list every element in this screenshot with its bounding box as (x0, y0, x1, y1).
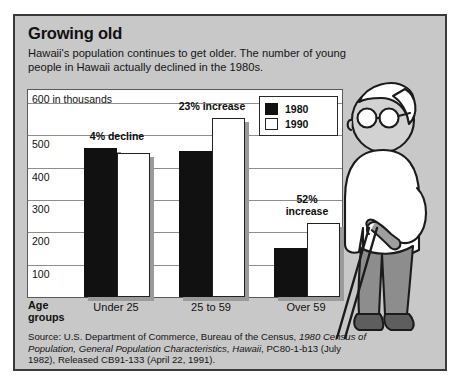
chart-plot-area: 600 in thousands 100200300400500 4% decl… (27, 89, 343, 298)
bar-1980-under-25 (84, 148, 117, 297)
infographic-panel: Growing old Hawaii's population continue… (13, 14, 447, 371)
annotation-under-25: 4% decline (70, 130, 164, 142)
bar-1980-25-to-59 (179, 151, 212, 297)
bar-1990-under-25 (117, 153, 150, 297)
x-axis: Age groups Under 2525 to 59Over 59 (27, 300, 343, 326)
legend-item-1990: 1990 (265, 116, 332, 131)
y-tick-label-100: 100 (32, 268, 50, 280)
bar-body (117, 153, 150, 297)
bar-1990-25-to-59 (212, 118, 245, 297)
source-prefix: Source: U.S. Department of Commerce, Bur… (28, 331, 299, 342)
elderly-man-illustration (333, 76, 447, 341)
bar-body (212, 118, 245, 297)
legend-item-1980: 1980 (265, 101, 332, 116)
y-tick-label-400: 400 (32, 171, 50, 183)
bar-body (84, 148, 117, 297)
bar-body (274, 248, 307, 297)
source-tail: Released CB91-133 (April 22, 1991). (58, 354, 215, 365)
subtitle-text: Hawaii's population continues to get old… (28, 47, 358, 74)
legend-label-1980: 1980 (285, 103, 308, 115)
bar-1980-over-59 (274, 248, 307, 297)
legend-label-1990: 1990 (285, 118, 308, 130)
bar-body (179, 151, 212, 297)
y-tick-label-300: 300 (32, 203, 50, 215)
annotation-25-to-59: 23% increase (165, 100, 259, 112)
page-title: Growing old (28, 24, 122, 43)
chart-legend: 1980 1990 (259, 96, 338, 136)
x-axis-title: Age groups (28, 300, 65, 323)
x-tick-label-25-to-59: 25 to 59 (164, 301, 258, 313)
legend-swatch-1990 (265, 118, 278, 130)
y-tick-label-500: 500 (32, 138, 50, 150)
legend-swatch-1980 (265, 103, 278, 115)
y-tick-label-200: 200 (32, 235, 50, 247)
x-tick-label-under-25: Under 25 (69, 301, 163, 313)
source-citation: Source: U.S. Department of Commerce, Bur… (28, 331, 368, 366)
